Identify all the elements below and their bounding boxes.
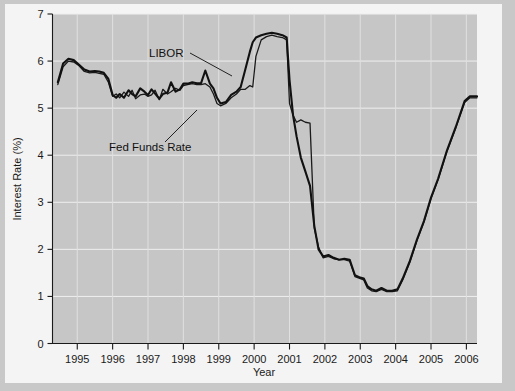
x-tick-label: 1997 bbox=[136, 353, 160, 365]
chart-paper: 01234567 1995199619971998199920002001200… bbox=[5, 4, 502, 383]
y-tick-label: 2 bbox=[37, 243, 43, 255]
y-tick-label: 5 bbox=[37, 102, 43, 114]
x-axis-title: Year bbox=[253, 366, 276, 378]
y-tick-label: 4 bbox=[37, 149, 43, 161]
x-tick-label: 2001 bbox=[277, 353, 301, 365]
plot-area-background bbox=[52, 14, 477, 343]
x-tick-label: 2006 bbox=[454, 353, 478, 365]
x-tick-label: 1995 bbox=[65, 353, 89, 365]
y-tick-label: 0 bbox=[37, 338, 43, 350]
y-axis-ticks: 01234567 bbox=[37, 8, 52, 350]
interest-rate-line-chart: 01234567 1995199619971998199920002001200… bbox=[5, 4, 502, 383]
x-tick-label: 2002 bbox=[313, 353, 337, 365]
y-tick-label: 3 bbox=[37, 196, 43, 208]
x-axis-ticks: 1995199619971998199920002001200220032004… bbox=[65, 344, 479, 365]
annotation-libor-label: LIBOR bbox=[149, 47, 184, 59]
y-axis-title: Interest Rate (%) bbox=[11, 137, 23, 220]
y-tick-label: 7 bbox=[37, 8, 43, 20]
y-tick-label: 6 bbox=[37, 55, 43, 67]
x-tick-label: 2003 bbox=[348, 353, 372, 365]
y-tick-label: 1 bbox=[37, 290, 43, 302]
x-tick-label: 2004 bbox=[383, 353, 407, 365]
x-tick-label: 1998 bbox=[171, 353, 195, 365]
annotation-fed-funds-label: Fed Funds Rate bbox=[109, 141, 191, 153]
x-tick-label: 1999 bbox=[207, 353, 231, 365]
x-tick-label: 1996 bbox=[100, 353, 124, 365]
x-tick-label: 2000 bbox=[242, 353, 266, 365]
figure-background: 01234567 1995199619971998199920002001200… bbox=[0, 0, 515, 391]
x-tick-label: 2005 bbox=[419, 353, 443, 365]
